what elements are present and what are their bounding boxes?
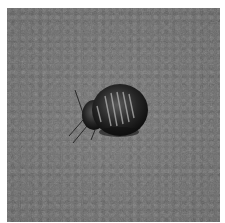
bed-bug-photo <box>7 8 220 222</box>
bed-bug-illustration <box>7 8 220 222</box>
